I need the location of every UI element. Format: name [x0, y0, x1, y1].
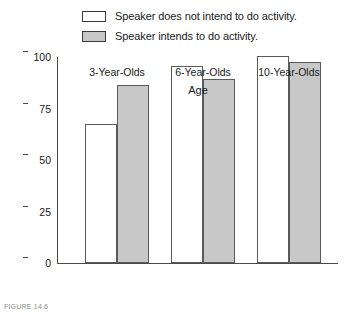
x-label-10-year-olds: 10-Year-Olds	[234, 66, 344, 79]
y-tick-label-100: 100	[33, 51, 51, 63]
figure-bar-chart: Speaker does not intend to do activity. …	[0, 0, 348, 315]
y-tick-0: 0	[28, 257, 58, 269]
x-axis-title: Age	[58, 84, 338, 97]
legend-swatch-white-icon	[82, 11, 106, 22]
chart-legend: Speaker does not intend to do activity. …	[82, 8, 322, 48]
y-tick-mark-75	[23, 103, 28, 104]
legend-label-intent: Speaker intends to do activity.	[115, 30, 258, 43]
legend-item-intent: Speaker intends to do activity.	[82, 28, 322, 45]
legend-item-no-intent: Speaker does not intend to do activity.	[82, 8, 322, 25]
y-tick-label-25: 25	[39, 206, 51, 218]
y-tick-50: 50	[28, 154, 58, 166]
bar-6-year-olds-intent	[203, 79, 235, 263]
y-tick-mark-50	[23, 154, 28, 155]
y-tick-mark-100	[23, 51, 28, 52]
y-tick-mark-25	[23, 206, 28, 207]
y-tick-label-75: 75	[39, 103, 51, 115]
legend-swatch-gray-icon	[82, 31, 106, 42]
plot-area: Percent Correct Choice of Scenario Outco…	[57, 57, 338, 264]
y-tick-label-50: 50	[39, 154, 51, 166]
bar-3-year-olds-no-intent	[85, 124, 117, 263]
y-tick-100: 100	[28, 51, 58, 63]
figure-caption: FIGURE 14.6	[4, 303, 48, 310]
legend-label-no-intent: Speaker does not intend to do activity.	[115, 10, 297, 23]
bar-3-year-olds-intent	[117, 85, 149, 263]
y-tick-75: 75	[28, 103, 58, 115]
y-tick-mark-0	[23, 257, 28, 258]
y-tick-label-0: 0	[45, 257, 51, 269]
y-tick-25: 25	[28, 206, 58, 218]
